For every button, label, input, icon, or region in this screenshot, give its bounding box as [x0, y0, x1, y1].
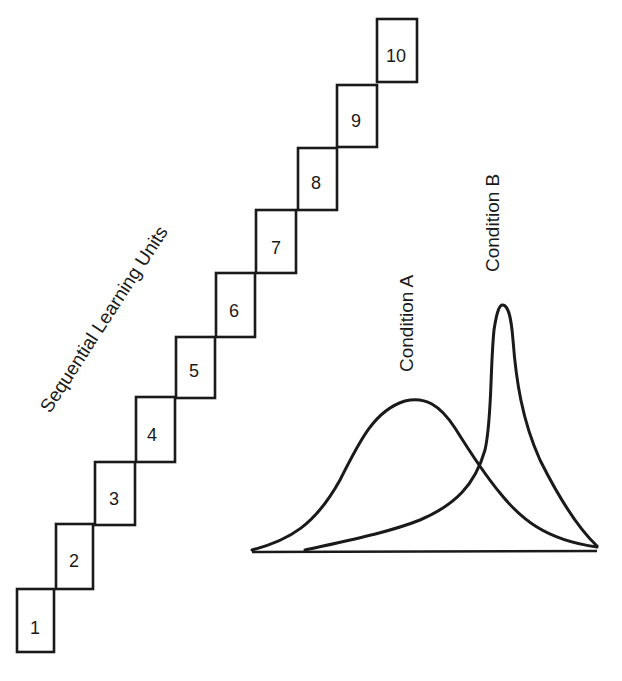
unit-box-1: 1 [17, 589, 54, 652]
unit-box-9: 9 [337, 85, 377, 147]
condition-b-label: Condition B [482, 174, 503, 272]
unit-box-3: 3 [95, 462, 135, 525]
unit-label-3: 3 [109, 489, 119, 509]
unit-box-7: 7 [256, 210, 296, 273]
unit-box-8: 8 [298, 148, 337, 210]
unit-label-6: 6 [229, 301, 239, 321]
condition-a-label: Condition A [396, 274, 417, 372]
staircase: 1 2 3 4 5 6 7 8 [17, 19, 417, 652]
diagram-canvas: 1 2 3 4 5 6 7 8 [0, 0, 622, 681]
unit-box-10: 10 [377, 19, 417, 82]
staircase-title: Sequential Learning Units [36, 222, 172, 416]
unit-label-7: 7 [271, 238, 281, 258]
unit-label-5: 5 [189, 361, 199, 381]
unit-box-6: 6 [216, 273, 255, 337]
unit-box-5: 5 [176, 337, 215, 398]
distribution-chart: Condition A Condition B [252, 174, 597, 552]
unit-label-10: 10 [386, 46, 406, 66]
unit-label-2: 2 [69, 551, 79, 571]
unit-label-9: 9 [351, 111, 361, 131]
unit-box-4: 4 [136, 397, 175, 462]
condition-a-curve [252, 400, 597, 550]
unit-label-8: 8 [311, 173, 321, 193]
unit-label-4: 4 [147, 425, 157, 445]
unit-box-2: 2 [56, 524, 93, 589]
condition-b-curve [305, 305, 597, 550]
unit-label-1: 1 [30, 618, 40, 638]
x-axis-line [252, 551, 597, 552]
